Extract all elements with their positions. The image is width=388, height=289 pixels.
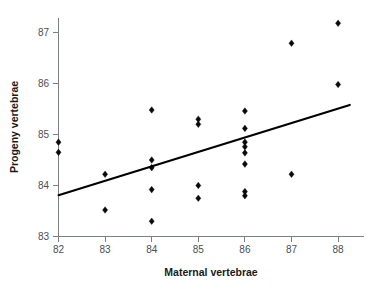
- y-axis-title: Progeny vertebrae: [8, 81, 20, 173]
- data-point: [289, 40, 294, 47]
- data-point: [149, 157, 154, 164]
- data-point: [242, 108, 247, 115]
- y-tick-label: 84: [38, 180, 50, 191]
- regression-line: [59, 105, 350, 195]
- x-axis-title: Maternal vertebrae: [164, 266, 258, 278]
- y-axis-ticks: 8384858687: [38, 27, 59, 242]
- regression-line-segment: [59, 105, 350, 195]
- data-point: [56, 139, 61, 146]
- data-point: [242, 150, 247, 157]
- data-point: [149, 218, 154, 225]
- data-point: [242, 125, 247, 132]
- y-tick-label: 85: [38, 129, 50, 140]
- data-point: [149, 107, 154, 114]
- y-tick-label: 87: [38, 27, 50, 38]
- data-point: [196, 182, 201, 189]
- data-point: [242, 161, 247, 168]
- data-point: [103, 171, 108, 178]
- data-point: [336, 81, 341, 88]
- x-tick-label: 85: [193, 244, 205, 255]
- data-point: [289, 171, 294, 178]
- data-point: [196, 121, 201, 128]
- data-point: [242, 143, 247, 150]
- data-point: [103, 207, 108, 214]
- x-tick-label: 88: [333, 244, 345, 255]
- scatter-plot-figure: 8384858687 82838485868788 Maternal verte…: [0, 0, 388, 289]
- data-point: [149, 186, 154, 193]
- y-tick-label: 83: [38, 231, 50, 242]
- x-tick-label: 84: [146, 244, 158, 255]
- plot-canvas: 8384858687 82838485868788 Maternal verte…: [0, 0, 388, 289]
- data-point: [56, 149, 61, 156]
- x-tick-label: 83: [100, 244, 112, 255]
- axes: [59, 18, 365, 237]
- x-tick-label: 87: [286, 244, 298, 255]
- x-tick-label: 86: [239, 244, 251, 255]
- data-point: [242, 192, 247, 199]
- x-tick-label: 82: [53, 244, 65, 255]
- data-points: [56, 20, 341, 224]
- data-point: [196, 195, 201, 202]
- data-point: [336, 20, 341, 27]
- y-tick-label: 86: [38, 78, 50, 89]
- x-axis-ticks: 82838485868788: [53, 237, 344, 256]
